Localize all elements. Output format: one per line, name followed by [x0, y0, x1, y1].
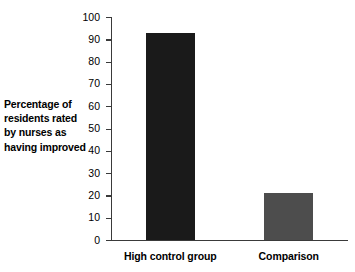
y-tick-mark — [106, 240, 111, 241]
y-axis-title-line-1: Percentage of — [4, 97, 96, 111]
y-tick-label: 10 — [88, 210, 100, 225]
x-axis-label-0: High control group — [124, 250, 217, 262]
y-tick-label: 40 — [88, 143, 100, 158]
y-tick-label: 70 — [88, 76, 100, 91]
y-axis-title-line-2: residents rated — [4, 111, 96, 125]
x-axis-label-1: Comparison — [259, 250, 319, 262]
y-tick-label: 50 — [88, 121, 100, 136]
y-tick-label: 30 — [88, 166, 100, 181]
y-tick-label: 80 — [88, 54, 100, 69]
y-tick-label: 90 — [88, 32, 100, 47]
y-tick-label: 60 — [88, 99, 100, 114]
y-tick-label: 100 — [82, 10, 100, 25]
y-axis-title-line-3: by nurses as — [4, 125, 96, 139]
y-axis-title-line-4: having improved — [4, 140, 96, 154]
y-axis-title: Percentage of residents rated by nurses … — [4, 97, 96, 154]
y-tick-label: 20 — [88, 188, 100, 203]
bars-layer — [111, 17, 348, 240]
bar-0 — [146, 33, 195, 240]
bar-chart-figure: Percentage of residents rated by nurses … — [0, 0, 355, 272]
y-tick-label: 0 — [94, 233, 100, 248]
bar-1 — [264, 193, 313, 240]
